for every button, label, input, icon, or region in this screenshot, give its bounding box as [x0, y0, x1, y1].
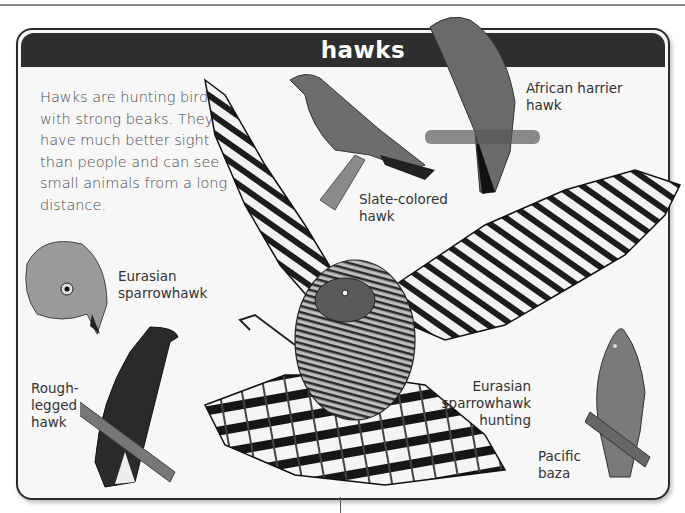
top-rule [0, 4, 685, 6]
label-pacific-baza: Pacific baza [538, 448, 581, 482]
page-title: hawks [321, 37, 406, 63]
label-eurasian-sparrowhawk: Eurasian sparrowhawk [118, 268, 207, 302]
rough-legged-hawk-illustration [80, 322, 180, 492]
label-african-harrier-hawk: African harrier hawk [526, 80, 623, 114]
bottom-tick-line [340, 497, 341, 513]
label-slate-colored-hawk: Slate-colored hawk [359, 191, 448, 225]
label-eurasian-sparrowhawk-hunting: Eurasian sparrowhawk hunting [430, 378, 531, 429]
pacific-baza-illustration [585, 322, 655, 482]
label-rough-legged-hawk: Rough- legged hawk [31, 380, 79, 431]
header-bar: hawks [21, 33, 665, 67]
